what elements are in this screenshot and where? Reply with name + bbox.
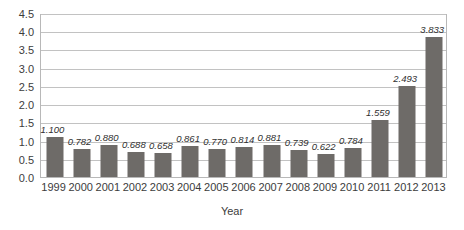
x-axis-tick-label: 2002 — [123, 181, 147, 193]
x-axis-tick-label: 2005 — [204, 181, 228, 193]
bar-slot: 0.784 — [339, 15, 366, 177]
y-axis: 0.00.51.01.52.02.53.03.54.04.5 — [0, 0, 38, 230]
y-axis-tick-label: 4.5 — [19, 9, 34, 20]
bar-slot: 2.493 — [394, 15, 421, 177]
bar-slot: 3.833 — [421, 15, 448, 177]
bar-slot: 1.559 — [367, 15, 394, 177]
bar[interactable] — [263, 145, 280, 177]
x-axis-tick-label: 1999 — [41, 181, 65, 193]
y-axis-tick-label: 0.5 — [19, 154, 34, 165]
bar[interactable] — [345, 148, 362, 177]
x-axis-tick-label: 2011 — [367, 181, 391, 193]
x-axis-tick-label: 2003 — [150, 181, 174, 193]
bar-chart: 0.00.51.01.52.02.53.03.54.04.5 1.1000.78… — [0, 0, 464, 230]
bar-slot: 0.622 — [312, 15, 339, 177]
y-axis-tick-label: 1.0 — [19, 136, 34, 147]
bar-value-label: 3.833 — [420, 25, 444, 35]
bar-slot: 0.770 — [204, 15, 231, 177]
y-axis-tick-label: 1.5 — [19, 118, 34, 129]
bar[interactable] — [399, 86, 416, 177]
bar-value-label: 0.880 — [95, 133, 119, 143]
y-axis-tick-label: 2.5 — [19, 81, 34, 92]
bar-value-label: 1.559 — [366, 108, 390, 118]
bar-slot: 0.881 — [258, 15, 285, 177]
bar[interactable] — [290, 150, 307, 177]
x-axis: 1999200020012002200320042005200620072008… — [40, 181, 447, 197]
bar-slot: 0.880 — [95, 15, 122, 177]
bar-value-label: 0.881 — [258, 133, 282, 143]
bar-value-label: 0.784 — [339, 136, 363, 146]
bar[interactable] — [182, 146, 199, 177]
x-axis-tick-label: 2010 — [340, 181, 364, 193]
bar-value-label: 0.770 — [203, 137, 227, 147]
x-axis-tick-label: 2007 — [258, 181, 282, 193]
bar[interactable] — [317, 154, 334, 177]
bar[interactable] — [100, 145, 117, 177]
bars-layer: 1.1000.7820.8800.6880.6580.8610.7700.814… — [41, 15, 446, 177]
bar-slot: 0.782 — [68, 15, 95, 177]
bar[interactable] — [73, 149, 90, 177]
bar-value-label: 0.739 — [285, 138, 309, 148]
x-axis-tick-label: 2006 — [231, 181, 255, 193]
bar-value-label: 0.622 — [312, 142, 336, 152]
x-axis-tick-label: 2012 — [394, 181, 418, 193]
bar[interactable] — [155, 153, 172, 177]
bar-slot: 0.688 — [122, 15, 149, 177]
x-axis-title: Year — [0, 205, 464, 217]
bar[interactable] — [209, 149, 226, 177]
bar-slot: 0.861 — [177, 15, 204, 177]
x-axis-tick-label: 2008 — [286, 181, 310, 193]
y-axis-tick-label: 2.0 — [19, 100, 34, 111]
x-axis-tick-label: 2013 — [421, 181, 445, 193]
bar[interactable] — [426, 37, 443, 177]
bar-slot: 0.658 — [150, 15, 177, 177]
bar-value-label: 0.688 — [122, 140, 146, 150]
bar-value-label: 0.658 — [149, 141, 173, 151]
x-axis-tick-label: 2009 — [313, 181, 337, 193]
bar-value-label: 1.100 — [41, 125, 65, 135]
bar[interactable] — [46, 137, 63, 177]
bar-value-label: 0.782 — [68, 137, 92, 147]
bar[interactable] — [236, 147, 253, 177]
x-axis-tick-label: 2004 — [177, 181, 201, 193]
y-axis-tick-label: 4.0 — [19, 27, 34, 38]
y-axis-tick-label: 3.0 — [19, 63, 34, 74]
plot-area: 1.1000.7820.8800.6880.6580.8610.7700.814… — [40, 14, 447, 178]
y-axis-tick-label: 0.0 — [19, 173, 34, 184]
bar[interactable] — [372, 120, 389, 177]
bar-value-label: 0.814 — [230, 135, 254, 145]
x-axis-tick-label: 2000 — [68, 181, 92, 193]
x-axis-tick-label: 2001 — [96, 181, 120, 193]
bar-slot: 1.100 — [41, 15, 68, 177]
bar[interactable] — [127, 152, 144, 177]
bar-value-label: 2.493 — [393, 74, 417, 84]
y-axis-tick-label: 3.5 — [19, 45, 34, 56]
bar-slot: 0.814 — [231, 15, 258, 177]
bar-slot: 0.739 — [285, 15, 312, 177]
bar-value-label: 0.861 — [176, 134, 200, 144]
